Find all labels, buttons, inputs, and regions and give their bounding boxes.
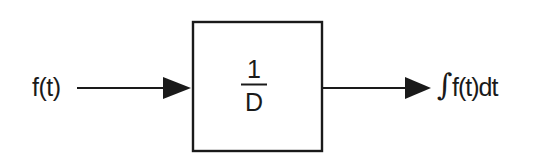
- input-label: f(t): [32, 75, 61, 100]
- output-label: f(t)dt: [452, 75, 497, 100]
- integral-sign: ∫: [437, 70, 453, 100]
- block-denominator: D: [245, 90, 263, 115]
- block-numerator: 1: [246, 57, 262, 82]
- input-arrow: [77, 77, 191, 99]
- output-arrow: [322, 77, 431, 99]
- transfer-block: [193, 22, 322, 151]
